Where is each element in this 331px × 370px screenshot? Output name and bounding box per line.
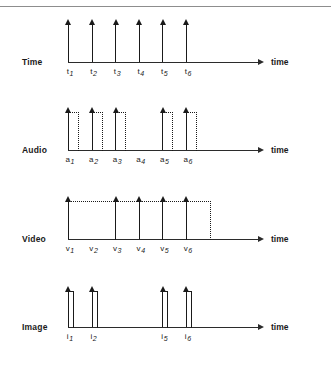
impulse-arrowhead-image-1 [65,286,71,292]
timeline-row-image: Imagetimei1i2i5i6 [0,0,331,88]
slot-label-subscript: 6 [187,335,192,342]
row-label-video: Video [22,234,46,244]
impulse-stem-image-2 [92,291,93,327]
impulse-arrowhead-audio-5 [160,107,166,113]
slot-label-subscript: 4 [141,247,146,254]
impulse-stem-audio-2 [92,112,93,150]
slot-label-subscript: 2 [92,335,97,342]
impulse-stem-image-1 [68,291,69,327]
slot-label-audio-6: a6 [184,155,193,165]
slot-label-video-4: v4 [137,244,146,254]
pulse-body-audio-2 [92,112,103,151]
time-axis-arrowhead-video [258,236,264,242]
impulse-arrowhead-image-2 [89,286,95,292]
slot-label-video-1: v1 [66,244,75,254]
impulse-arrowhead-audio-3 [113,107,119,113]
slot-label-subscript: 5 [164,158,169,165]
pulse-body-audio-5 [162,112,173,151]
time-axis-arrowhead-image [258,324,264,330]
slot-label-audio-3: a3 [113,155,122,165]
slot-label-image-1: i1 [67,332,73,342]
slot-label-audio-2: a2 [89,155,98,165]
impulse-stem-audio-1 [68,112,69,150]
slot-label-image-6: i6 [185,332,191,342]
impulse-arrowhead-video-6 [183,196,189,202]
row-label-image: Image [22,322,48,332]
slot-label-video-5: v5 [160,244,169,254]
time-axis-caption-video: time [271,234,288,244]
time-axis-caption-image: time [271,322,288,332]
pulse-body-audio-1 [68,112,79,151]
slot-label-video-6: v6 [184,244,193,254]
impulse-stem-video-4 [139,201,140,239]
impulse-stem-video-3 [115,201,116,239]
impulse-stem-audio-6 [186,112,187,150]
pulse-body-video-5 [162,201,187,240]
slot-label-audio-5: a5 [160,155,169,165]
slot-label-subscript: 3 [117,158,122,165]
impulse-stem-audio-3 [115,112,116,150]
pulse-body-audio-3 [115,112,126,151]
slot-label-subscript: 6 [188,247,193,254]
slot-label-subscript: 4 [141,158,146,165]
impulse-arrowhead-video-3 [113,196,119,202]
slot-label-image-2: i2 [90,332,96,342]
pulse-body-video-4 [139,201,164,240]
slot-label-subscript: 5 [164,247,169,254]
impulse-arrowhead-audio-1 [65,107,71,113]
impulse-arrowhead-audio-2 [89,107,95,113]
impulse-arrowhead-audio-6 [183,107,189,113]
impulse-stem-image-6 [186,291,187,327]
slot-label-subscript: 2 [94,158,99,165]
pulse-body-video-1 [68,201,116,240]
slot-label-subscript: 5 [163,335,168,342]
impulse-stem-audio-5 [162,112,163,150]
slot-label-video-3: v3 [113,244,122,254]
row-label-audio: Audio [22,145,47,155]
impulse-stem-video-6 [186,201,187,239]
slot-label-audio-4: a4 [136,155,145,165]
slot-label-subscript: 3 [117,247,122,254]
slot-label-subscript: 6 [188,158,193,165]
time-axis-arrowhead-audio [258,147,264,153]
impulse-stem-video-1 [68,201,69,239]
time-axis-caption-audio: time [271,145,288,155]
media-timeline-diagram: Timetimet1t2t3t4t5t6Audiotimea1a2a3a4a5a… [0,0,331,370]
slot-label-subscript: 1 [70,247,75,254]
impulse-arrowhead-video-5 [160,196,166,202]
impulse-arrowhead-image-5 [160,286,166,292]
pulse-body-video-6 [186,201,211,240]
impulse-stem-image-5 [162,291,163,327]
pulse-body-audio-6 [186,112,197,151]
impulse-arrowhead-video-1 [65,196,71,202]
impulse-arrowhead-video-4 [136,196,142,202]
impulse-stem-video-5 [162,201,163,239]
slot-label-subscript: 2 [93,247,98,254]
slot-label-video-2: v2 [89,244,98,254]
slot-label-subscript: 1 [69,335,74,342]
slot-label-subscript: 1 [70,158,75,165]
slot-label-image-5: i5 [161,332,167,342]
slot-label-audio-1: a1 [66,155,75,165]
impulse-arrowhead-image-6 [183,286,189,292]
